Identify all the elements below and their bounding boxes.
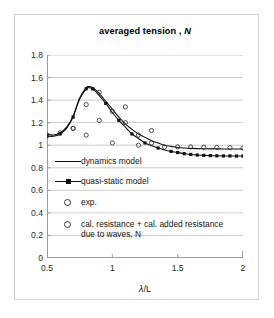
legend-item-label: dynamics model: [81, 156, 142, 166]
y-tick-label-1.6: 1.6: [17, 74, 43, 83]
x-axis-label: λ/L: [47, 283, 243, 294]
series-3: [47, 90, 243, 150]
chart-figure: averaged tension , N 1.8 1.6 1.4 1.2 1 0…: [0, 0, 274, 318]
y-tick-label-1: 1: [17, 141, 43, 150]
chart-title-unit: N: [184, 26, 191, 36]
x-tick-label-1.5: 1.5: [164, 264, 192, 273]
legend-item-label: exp.: [81, 197, 97, 207]
legend-item-label: cal. resistance + cal. added resistance …: [81, 219, 223, 239]
x-tick-label-1: 1: [98, 264, 126, 273]
x-axis-label-lambda: λ: [139, 283, 144, 294]
y-tick-label-0.6: 0.6: [17, 186, 43, 195]
line-key-icon: [55, 156, 81, 167]
open-circle-key-icon: [55, 197, 81, 208]
chart-legend: dynamics model quasi-static model exp. c…: [55, 156, 241, 248]
y-tick-label-0.4: 0.4: [17, 209, 43, 218]
y-tick-label-1.4: 1.4: [17, 96, 43, 105]
legend-item-quasi-static-model[interactable]: quasi-static model: [55, 176, 241, 187]
chart-title: averaged tension , N: [47, 26, 243, 36]
y-tick-label-0.8: 0.8: [17, 164, 43, 173]
y-tick-label-0.2: 0.2: [17, 231, 43, 240]
y-tick-label-1.2: 1.2: [17, 119, 43, 128]
legend-item-cal-resistance[interactable]: cal. resistance + cal. added resistance …: [55, 219, 241, 239]
legend-item-exp[interactable]: exp.: [55, 197, 241, 208]
series-0: [47, 86, 243, 149]
y-tick-label-0: 0: [17, 254, 43, 263]
open-circle-key-icon: [55, 219, 81, 230]
x-tick-label-2: 2: [229, 264, 257, 273]
data-series-layer: [47, 86, 243, 157]
legend-item-label: quasi-static model: [81, 176, 149, 186]
line-square-key-icon: [55, 176, 81, 187]
y-tick-label-1.8: 1.8: [17, 51, 43, 60]
x-tick-label-0.5: 0.5: [33, 264, 61, 273]
legend-item-dynamics-model[interactable]: dynamics model: [55, 156, 241, 167]
